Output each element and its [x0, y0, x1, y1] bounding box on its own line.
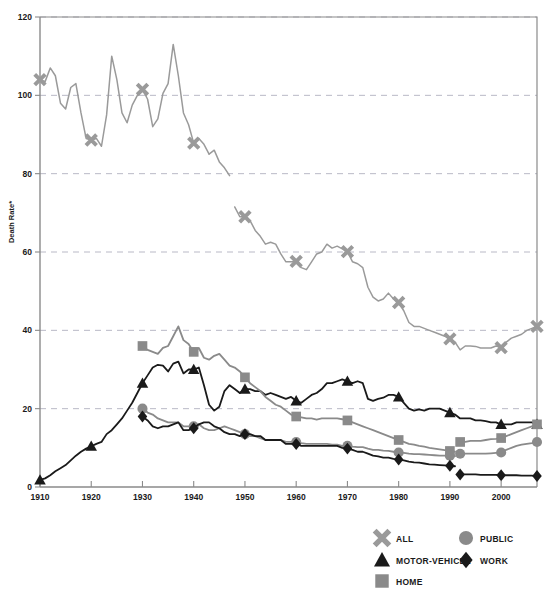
data-point-marker-triangle: [137, 377, 149, 387]
data-point-marker-x: [445, 334, 456, 345]
data-point-marker-diamond: [445, 460, 455, 472]
legend-item-work[interactable]: WORK: [459, 552, 508, 569]
x-tick-label: 1970: [338, 492, 357, 502]
legend-label: ALL: [396, 534, 413, 544]
data-point-marker-x: [86, 135, 97, 146]
legend-label: HOME: [396, 577, 423, 587]
x-tick-label: 1980: [389, 492, 408, 502]
x-tick-label: 1930: [133, 492, 152, 502]
data-point-marker-square: [240, 373, 250, 383]
chart-container: 0204060801001201910192019301940195019601…: [0, 0, 552, 594]
legend-item-motor-vehicle[interactable]: MOTOR-VEHICLE: [374, 552, 471, 566]
data-point-marker-circle: [445, 451, 455, 461]
data-point-marker-diamond: [496, 469, 506, 481]
death-rate-line-chart: 0204060801001201910192019301940195019601…: [0, 0, 552, 594]
x-tick-label: 1940: [184, 492, 203, 502]
x-tick-label: 1990: [440, 492, 459, 502]
y-tick-label: 20: [23, 404, 33, 414]
data-point-marker-square: [375, 574, 388, 587]
data-point-marker-square: [189, 347, 199, 357]
data-point-marker-square: [343, 416, 353, 426]
data-point-marker-square: [496, 433, 506, 443]
y-tick-label: 60: [23, 247, 33, 257]
data-point-marker-x: [393, 297, 404, 308]
data-point-marker-square: [455, 437, 465, 447]
y-axis-title: Death Rate*: [7, 201, 16, 243]
legend-label: WORK: [480, 556, 509, 566]
data-point-marker-diamond: [532, 470, 542, 482]
series-all: [35, 44, 543, 352]
gridlines: [40, 17, 537, 409]
x-tick-label: 1920: [82, 492, 101, 502]
legend-item-all[interactable]: ALL: [375, 531, 414, 546]
x-tick-label: 1960: [287, 492, 306, 502]
data-point-marker-x: [375, 531, 390, 546]
legend-item-home[interactable]: HOME: [375, 574, 422, 587]
x-tick-label: 1950: [235, 492, 254, 502]
data-point-marker-circle: [459, 531, 473, 545]
data-point-marker-x: [496, 342, 507, 353]
legend-item-public[interactable]: PUBLIC: [459, 531, 513, 545]
series-home: [138, 326, 542, 455]
x-tick-label: 1910: [31, 492, 50, 502]
y-tick-label: 40: [23, 325, 33, 335]
data-point-marker-square: [138, 341, 148, 351]
y-tick-label: 100: [18, 90, 32, 100]
legend: ALLMOTOR-VEHICLEHOMEPUBLICWORK: [374, 531, 513, 588]
series-motor-vehicle: [34, 362, 543, 485]
data-point-marker-triangle: [85, 441, 97, 451]
data-point-marker-diamond: [455, 468, 465, 480]
x-tick-label: 2000: [492, 492, 511, 502]
y-tick-label: 120: [18, 12, 32, 22]
data-point-marker-square: [532, 420, 542, 430]
data-point-marker-square: [394, 435, 404, 445]
data-point-marker-x: [188, 138, 199, 149]
series-public: [137, 404, 542, 461]
data-point-marker-square: [291, 412, 301, 422]
data-point-marker-circle: [532, 437, 542, 447]
data-point-marker-diamond: [240, 428, 250, 440]
data-point-marker-triangle: [342, 376, 354, 386]
data-point-marker-circle: [496, 447, 506, 457]
data-point-marker-x: [137, 84, 148, 95]
legend-label: MOTOR-VEHICLE: [396, 556, 471, 566]
data-point-marker-triangle: [374, 552, 390, 566]
legend-label: PUBLIC: [480, 534, 513, 544]
data-point-marker-circle: [455, 449, 465, 459]
y-tick-label: 80: [23, 169, 33, 179]
x-axis-ticks: 1910192019301940195019601970198019902000: [31, 481, 511, 502]
y-tick-label: 0: [27, 482, 32, 492]
